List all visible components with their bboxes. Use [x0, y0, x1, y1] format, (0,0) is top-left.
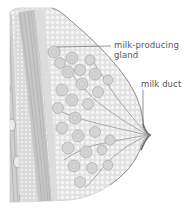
rib-icon — [9, 119, 16, 131]
label-milk-producing-gland: milk-producing gland — [114, 40, 179, 60]
label-gland-line1: milk-producing — [114, 40, 179, 50]
label-milk-duct: milk duct — [141, 79, 181, 89]
rib-icon — [4, 83, 11, 95]
breast-anatomy-illustration — [0, 0, 185, 211]
label-gland-line2: gland — [114, 50, 179, 60]
